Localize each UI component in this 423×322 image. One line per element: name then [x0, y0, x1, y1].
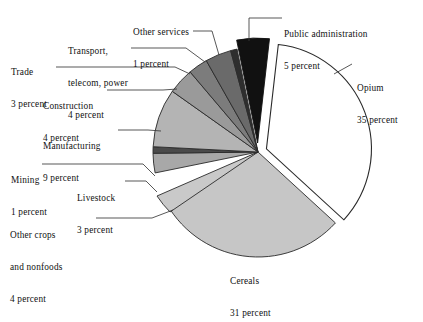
label-livestock: Livestock 3 percent [77, 172, 115, 257]
label-opium: Opium 35 percent [357, 62, 398, 147]
label-opium-name: Opium [357, 83, 398, 94]
label-trade-percent: 3 percent [11, 99, 47, 110]
label-cereals: Cereals 31 percent [230, 255, 271, 322]
leader-line-public-administration [249, 18, 282, 41]
label-livestock-percent: 3 percent [77, 225, 115, 236]
label-livestock-name: Livestock [77, 193, 115, 204]
label-public-administration-percent: 5 percent [284, 61, 368, 72]
label-cereals-name: Cereals [230, 276, 271, 287]
leader-line-livestock [125, 181, 157, 192]
label-other-crops-name-line1: Other crops [10, 230, 63, 241]
label-public-administration: Public administration 5 percent [284, 8, 368, 93]
label-other-services-percent: 1 percent [133, 59, 189, 70]
label-trade: Trade 3 percent [11, 46, 47, 131]
label-mining-name: Mining [11, 175, 47, 186]
label-construction-name: Construction [43, 101, 93, 112]
label-other-crops: Other crops and nonfoods 4 percent [10, 209, 63, 322]
leader-line-other-services [193, 31, 219, 55]
label-other-crops-percent: 4 percent [10, 294, 63, 305]
label-opium-percent: 35 percent [357, 115, 398, 126]
label-trade-name: Trade [11, 67, 47, 78]
label-cereals-percent: 31 percent [230, 308, 271, 319]
label-transport-name-line1: Transport, [68, 46, 128, 57]
label-public-administration-name: Public administration [284, 29, 368, 40]
label-other-crops-name-line2: and nonfoods [10, 262, 63, 273]
label-other-services-name: Other services [133, 27, 189, 38]
label-manufacturing-name: Manufacturing [43, 141, 101, 152]
label-other-services: Other services 1 percent [133, 6, 189, 91]
